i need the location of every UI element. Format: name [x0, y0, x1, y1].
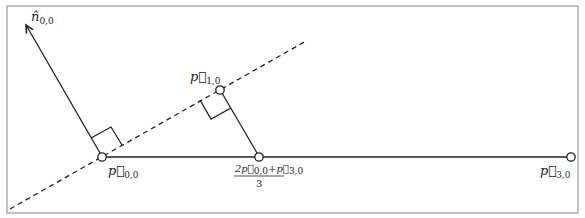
projection-line	[222, 93, 257, 153]
point-p00	[98, 153, 106, 161]
svg-text:2p⃗0,0+p⃗3,0: 2p⃗0,0+p⃗3,0	[234, 163, 303, 176]
point-p10	[216, 86, 224, 94]
diagram-canvas: n̂0,0 p⃗0,0 p⃗1,0 p⃗3,0 2p⃗0,0+p⃗3,0 3	[0, 0, 585, 218]
point-midpoint	[255, 153, 263, 161]
right-angle-marker-p00	[91, 127, 122, 145]
label-p10: p⃗1,0	[190, 69, 221, 86]
svg-text:3: 3	[256, 178, 262, 189]
label-p30: p⃗3,0	[540, 163, 571, 180]
figure-frame	[7, 6, 578, 213]
label-normal: n̂0,0	[31, 9, 54, 26]
label-midpoint-fraction: 2p⃗0,0+p⃗3,0 3	[234, 163, 303, 189]
right-angle-marker-p10	[200, 100, 231, 119]
point-p30	[567, 153, 575, 161]
normal-vector-arrow	[26, 25, 100, 153]
label-p00: p⃗0,0	[108, 163, 139, 180]
